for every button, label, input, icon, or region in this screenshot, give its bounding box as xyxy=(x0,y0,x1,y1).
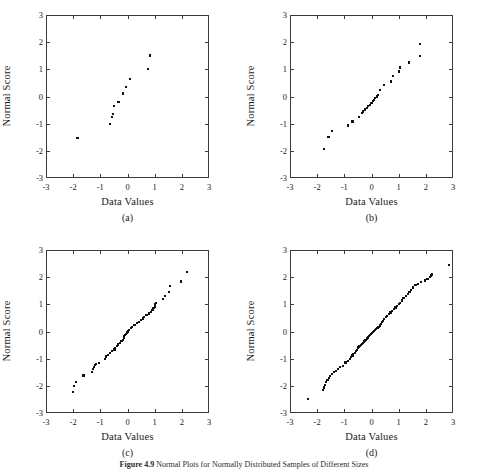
y-tick-label: 2 xyxy=(273,37,287,47)
x-tick xyxy=(155,174,156,178)
data-point xyxy=(401,299,403,301)
data-point xyxy=(351,120,353,122)
x-tick-top xyxy=(372,250,373,254)
y-tick-label: 3 xyxy=(29,10,43,20)
y-axis-title-b: Normal Score xyxy=(245,65,256,126)
x-tick-top xyxy=(155,15,156,19)
data-point xyxy=(122,92,124,94)
y-tick xyxy=(290,42,294,43)
x-axis-title-d: Data Values xyxy=(290,431,453,442)
plot-area-a: -3-3-2-2-1-100112233 xyxy=(46,15,209,178)
data-point xyxy=(408,291,410,293)
y-tick-label: 2 xyxy=(29,37,43,47)
y-tick-right xyxy=(449,97,453,98)
panel-tag-b: (b) xyxy=(290,212,453,223)
data-point xyxy=(408,61,410,63)
data-point xyxy=(113,105,115,107)
y-tick-label: 0 xyxy=(29,92,43,102)
data-point xyxy=(169,285,171,287)
y-tick-label: -1 xyxy=(29,119,43,129)
panel-a: -3-3-2-2-1-100112233 Normal Score Data V… xyxy=(0,0,244,234)
data-point xyxy=(358,116,360,118)
y-tick xyxy=(46,332,50,333)
y-tick-label: 1 xyxy=(273,64,287,74)
data-point xyxy=(162,298,164,300)
data-point xyxy=(410,289,412,291)
data-point xyxy=(149,54,151,56)
y-axis-title-a: Normal Score xyxy=(1,65,12,126)
x-axis-title-a: Data Values xyxy=(46,196,209,207)
x-tick-top xyxy=(155,250,156,254)
data-point xyxy=(402,297,404,299)
y-tick xyxy=(290,277,294,278)
y-tick-label: 1 xyxy=(29,64,43,74)
x-tick xyxy=(399,174,400,178)
data-point xyxy=(398,70,400,72)
x-tick-top xyxy=(399,250,400,254)
data-point xyxy=(399,302,401,304)
x-tick-label: 3 xyxy=(451,417,455,427)
y-tick xyxy=(290,151,294,152)
y-tick-label: 2 xyxy=(273,272,287,282)
scatter-canvas-b xyxy=(290,15,453,178)
x-tick xyxy=(344,409,345,413)
y-axis-title-c: Normal Score xyxy=(1,300,12,361)
panel-tag-d: (d) xyxy=(290,447,453,458)
x-tick xyxy=(317,174,318,178)
data-point xyxy=(325,381,327,383)
y-tick-right xyxy=(449,124,453,125)
panel-tag-c: (c) xyxy=(46,447,209,458)
y-tick-right xyxy=(449,42,453,43)
y-tick-right xyxy=(205,124,209,125)
data-point xyxy=(109,123,111,125)
y-tick-label: -1 xyxy=(273,119,287,129)
data-point xyxy=(448,264,450,266)
data-point xyxy=(154,305,156,307)
y-tick xyxy=(46,124,50,125)
x-tick-label: 3 xyxy=(207,182,211,192)
x-tick-label: 3 xyxy=(451,182,455,192)
data-point xyxy=(329,375,331,377)
y-tick-label: 0 xyxy=(273,327,287,337)
y-tick xyxy=(46,277,50,278)
x-tick-top xyxy=(73,15,74,19)
y-tick-right xyxy=(205,332,209,333)
x-tick-top xyxy=(426,15,427,19)
data-point xyxy=(91,371,93,373)
y-tick-label: -1 xyxy=(29,354,43,364)
data-point xyxy=(347,360,349,362)
x-tick-label: 0 xyxy=(369,182,373,192)
y-tick-right xyxy=(205,97,209,98)
y-tick-label: 0 xyxy=(273,92,287,102)
data-point xyxy=(323,386,325,388)
x-tick-label: 2 xyxy=(424,417,428,427)
y-tick xyxy=(46,359,50,360)
x-tick-label: -3 xyxy=(286,182,293,192)
data-point xyxy=(405,295,407,297)
y-tick-right xyxy=(449,386,453,387)
scatter-canvas-d xyxy=(290,250,453,413)
y-tick-label: 3 xyxy=(273,10,287,20)
x-axis-title-c: Data Values xyxy=(46,431,209,442)
data-point xyxy=(431,273,433,275)
data-point xyxy=(407,293,409,295)
data-point xyxy=(104,358,106,360)
x-tick-label: 1 xyxy=(153,182,157,192)
x-tick-top xyxy=(182,250,183,254)
x-tick xyxy=(317,409,318,413)
y-tick-right xyxy=(205,69,209,70)
y-tick-label: -3 xyxy=(273,173,287,183)
x-tick-label: 1 xyxy=(397,417,401,427)
data-point xyxy=(82,374,84,376)
x-tick-top xyxy=(344,15,345,19)
data-point xyxy=(392,75,394,77)
figure-caption: Figure 4.9 Normal Plots for Normally Dis… xyxy=(0,460,488,469)
data-point xyxy=(186,271,188,273)
data-point xyxy=(412,286,414,288)
y-tick xyxy=(290,97,294,98)
x-tick-label: 1 xyxy=(397,182,401,192)
data-point xyxy=(361,112,363,114)
x-tick-label: 2 xyxy=(424,182,428,192)
y-tick-right xyxy=(205,304,209,305)
data-point xyxy=(326,379,328,381)
